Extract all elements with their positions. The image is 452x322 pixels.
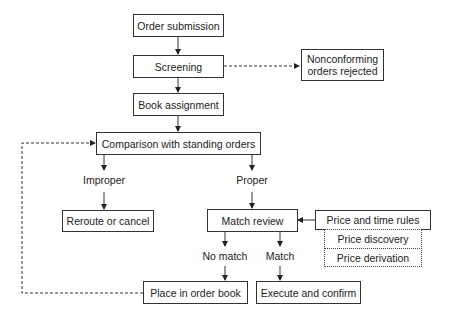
node-screening: Screening — [133, 55, 224, 78]
node-match-review: Match review — [207, 209, 298, 232]
node-book-assignment: Book assignment — [133, 93, 224, 116]
node-comparison: Comparison with standing orders — [96, 132, 261, 155]
label-no-match: No match — [203, 250, 248, 262]
node-order-submission: Order submission — [133, 14, 224, 37]
label-proper: Proper — [236, 174, 268, 186]
connector-lines — [0, 0, 452, 322]
label-improper: Improper — [83, 174, 125, 186]
label-match: Match — [266, 250, 295, 262]
node-nonconforming-rejected: Nonconforming orders rejected — [301, 49, 384, 81]
node-price-discovery: Price discovery — [324, 229, 422, 249]
node-reroute-cancel: Reroute or cancel — [62, 210, 154, 232]
node-place-in-order-book: Place in order book — [143, 281, 248, 304]
node-execute-confirm: Execute and confirm — [256, 281, 361, 304]
node-price-time-rules: Price and time rules — [315, 210, 431, 230]
node-price-derivation: Price derivation — [324, 248, 422, 267]
